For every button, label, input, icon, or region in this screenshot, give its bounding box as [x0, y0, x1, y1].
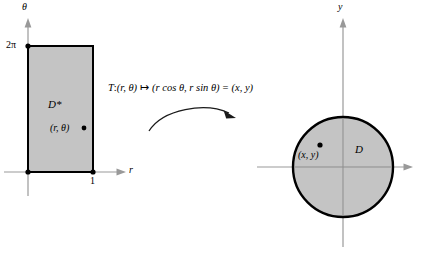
transformation-arrow-head: [224, 110, 237, 118]
image-point-label: (x, y): [298, 150, 319, 160]
formula-result: (x, y): [232, 82, 254, 93]
x-axis-arrowhead: [404, 164, 414, 171]
transformation-figure: θ 2π r 1 D* (r, θ) T:(r, θ)↦(r cos θ, r …: [0, 0, 422, 254]
transformation-arrow-graphics: [149, 108, 236, 131]
corner-dot-bottom-right: [90, 169, 95, 174]
r-tick-label-1: 1: [90, 176, 95, 186]
domain-region-label: D*: [48, 99, 61, 110]
image-region-label: D: [355, 144, 363, 155]
domain-panel-graphics: [4, 18, 126, 196]
domain-point-label: (r, θ): [50, 123, 69, 133]
theta-tick-label-2pi: 2π: [6, 40, 16, 50]
corner-dot-top-left: [25, 43, 30, 48]
r-axis-arrowhead: [117, 169, 127, 176]
theta-axis-arrowhead: [25, 18, 32, 28]
image-panel-graphics: [257, 18, 413, 247]
image-sample-point-dot: [317, 142, 322, 147]
formula-equals: =: [220, 82, 232, 93]
transformation-arrow-curve: [149, 108, 229, 131]
y-axis-label: y: [338, 2, 342, 12]
formula-output: (r cos θ, r sin θ): [152, 82, 219, 93]
theta-axis-label: θ: [22, 2, 27, 12]
transformation-formula: T:(r, θ)↦(r cos θ, r sin θ)=(x, y): [108, 83, 253, 94]
y-axis-arrowhead: [340, 18, 347, 28]
formula-input: (r, θ): [117, 82, 137, 93]
r-axis-label: r: [129, 165, 133, 175]
formula-maps-to-arrow: ↦: [137, 82, 152, 93]
corner-dot-bottom-left: [25, 169, 30, 174]
domain-sample-point-dot: [82, 126, 87, 131]
